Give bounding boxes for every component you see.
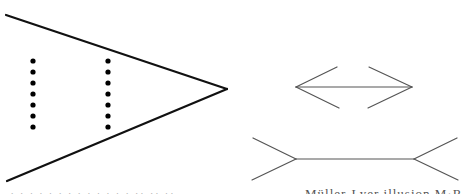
dot-column-1-dot — [30, 102, 35, 107]
caption-text: Müller-Lyer illusion M·R·Ho — [305, 186, 463, 194]
arrow-outward-left-fin — [252, 159, 296, 180]
caption-left-cropped: · · · · · · · · · · · · · ·· ·· ·· — [10, 186, 230, 194]
arrow-outward-left-fin — [253, 138, 296, 159]
arrow-outward-right-fin — [414, 159, 458, 180]
caption-text: · · · · · · · · · · · · · ·· ·· ·· — [10, 186, 230, 194]
dot-column-2-dot — [105, 102, 110, 107]
dot-column-1-dot — [30, 69, 35, 74]
dot-column-1-dot — [30, 113, 35, 118]
ponzo-converging-lines-figure — [6, 15, 227, 181]
muller-lyer-figure — [252, 67, 458, 180]
arrow-inward-left-fin — [296, 67, 337, 87]
dot-column-2-dot — [105, 80, 110, 85]
dot-column-2-dot — [105, 124, 110, 129]
dot-column-1-dot — [30, 58, 35, 63]
arrow-outward-right-fin — [414, 138, 457, 159]
converging-line-top — [6, 15, 227, 89]
arrow-inward-right-fin — [369, 67, 412, 87]
dot-column-2-dot — [105, 69, 110, 74]
arrow-inward-right-fin — [368, 87, 412, 108]
dot-column-2-dot — [105, 113, 110, 118]
arrow-inward-left-fin — [296, 87, 339, 108]
dot-column-1-dot — [30, 80, 35, 85]
dot-column-2-dot — [105, 91, 110, 96]
caption-right-cropped: Müller-Lyer illusion M·R·Ho — [305, 186, 463, 194]
illusion-figure — [0, 0, 463, 194]
converging-line-bottom — [7, 89, 227, 181]
dot-column-1-dot — [30, 91, 35, 96]
dot-column-1-dot — [30, 124, 35, 129]
dot-column-2-dot — [105, 58, 110, 63]
